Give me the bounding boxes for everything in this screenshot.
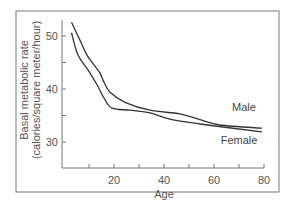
x-tick-label: 20 (108, 174, 120, 186)
x-tick-label: 40 (158, 174, 170, 186)
y-axis-title: Basal metabolic rate(calories/square met… (18, 21, 42, 159)
chart-figure: MaleFemale 30405020406080AgeBasal metabo… (0, 0, 292, 216)
series-line-female (72, 33, 263, 132)
series-label-female: Female (221, 134, 258, 146)
data-series: MaleFemale (72, 22, 263, 146)
y-tick-label: 30 (46, 136, 58, 148)
x-axis-title: Age (154, 188, 174, 200)
y-tick-label: 40 (46, 83, 58, 95)
y-tick-label: 50 (46, 30, 58, 42)
series-label-male: Male (232, 101, 256, 113)
svg-text:Basal metabolic rate: Basal metabolic rate (18, 40, 30, 140)
x-tick-label: 80 (258, 174, 270, 186)
x-tick-label: 60 (208, 174, 220, 186)
svg-text:(calories/square meter/hour): (calories/square meter/hour) (30, 21, 42, 159)
